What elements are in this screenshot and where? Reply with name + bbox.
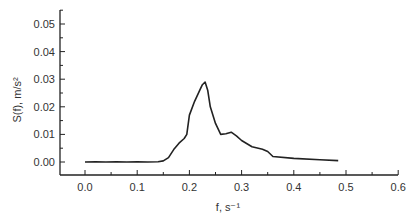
x-tick-label: 0.5 (338, 181, 353, 193)
axes: 0.00.10.20.30.40.50.60.000.010.020.030.0… (34, 10, 406, 193)
y-axis-label: S(f), m/s² (11, 77, 23, 123)
x-tick-label: 0.4 (286, 181, 301, 193)
spectrum-curve (85, 82, 338, 162)
x-tick-label: 0.6 (391, 181, 406, 193)
x-tick-label: 0.1 (130, 181, 145, 193)
x-axis-label: f, s⁻¹ (216, 201, 241, 213)
y-tick-label: 0.05 (34, 18, 55, 30)
spectrum-chart: 0.00.10.20.30.40.50.60.000.010.020.030.0… (0, 0, 418, 215)
y-tick-label: 0.02 (34, 101, 55, 113)
x-tick-label: 0.3 (234, 181, 249, 193)
y-tick-label: 0.00 (34, 156, 55, 168)
y-tick-label: 0.03 (34, 73, 55, 85)
x-tick-label: 0.2 (182, 181, 197, 193)
y-tick-label: 0.04 (34, 46, 55, 58)
x-tick-label: 0.0 (77, 181, 92, 193)
y-tick-label: 0.01 (34, 128, 55, 140)
